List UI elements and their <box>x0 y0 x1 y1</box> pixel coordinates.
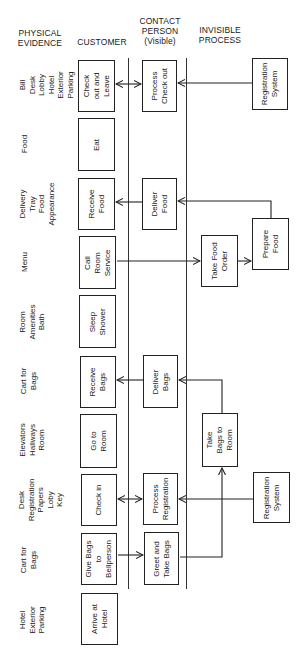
arrow-takebags-to-deliver <box>179 380 222 413</box>
arrow-prepare-to-deliver-food <box>178 201 271 218</box>
flow-arrows <box>0 0 307 661</box>
arrow-greet-to-takebags <box>180 468 222 557</box>
